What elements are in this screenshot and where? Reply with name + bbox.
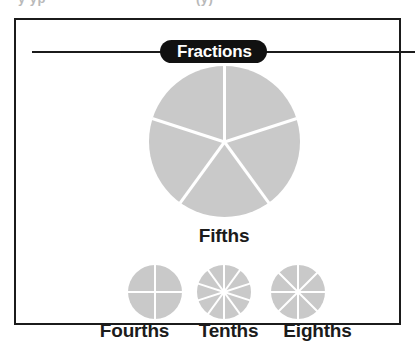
pie-chart-eighths [271,265,325,319]
pie-slice-divider [154,264,156,292]
clipped-text-bleed: y yp (y) [0,0,416,14]
pie-label-tenths: Tenths [191,320,267,342]
pie-slice-divider [297,291,318,312]
pie-label-row: Fourths Tenths Eighths [30,320,416,344]
pie-chart-fourths [128,265,182,319]
pie-label-fourths: Fourths [87,320,183,342]
pie-slice-divider [297,264,299,292]
pie-slice-divider [277,271,298,292]
pie-slice-divider [224,117,297,143]
clipped-text-right: (y) [196,0,213,6]
pie-slice-divider [179,141,226,204]
figure-title-banner: Fractions [160,40,267,63]
pie-slice-divider [223,292,225,320]
pie-chart-fifths [149,66,300,217]
pie-slice-divider [297,271,318,292]
pie-slice-divider [154,292,156,320]
pie-slice-divider [297,292,299,320]
pie-slice-divider [270,291,298,293]
clipped-text-left: y yp [18,0,46,6]
pie-slice-divider [223,66,226,142]
pie-label-fifths: Fifths [16,225,416,247]
pie-slice-divider [223,141,270,204]
pie-slice-divider [155,291,183,293]
pie-slice-divider [127,291,155,293]
pie-slice-divider [277,291,298,312]
pie-chart-tenths [197,265,251,319]
figure-title-text: Fractions [177,43,252,60]
figure-frame: Fractions Fifths Fourths Tenths Eighths [14,18,401,325]
pie-label-eighths: Eighths [275,320,361,342]
pie-slice-divider [152,117,225,143]
pie-slice-divider [298,291,326,293]
